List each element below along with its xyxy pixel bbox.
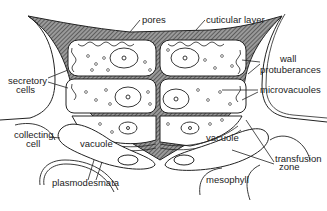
label-plasmodesmata: plasmodesmata (52, 177, 120, 188)
label-cells: cells (16, 84, 35, 95)
label-mesophyll: mesophyll (206, 174, 249, 185)
label-cuticular-layer: cuticular layer (206, 14, 265, 25)
label-vacuole-right: vacuole (206, 132, 239, 143)
gland-diagram: pores cuticular layer wall protuberances… (0, 0, 327, 211)
label-microvacuoles: microvacuoles (260, 84, 321, 95)
label-vacuole-left: vacuole (80, 138, 113, 149)
label-wall: wall (279, 53, 296, 64)
label-zone: zone (279, 161, 300, 172)
label-cell: cell (26, 138, 40, 149)
label-protuberances: protuberances (260, 64, 321, 75)
label-pores: pores (142, 14, 166, 25)
